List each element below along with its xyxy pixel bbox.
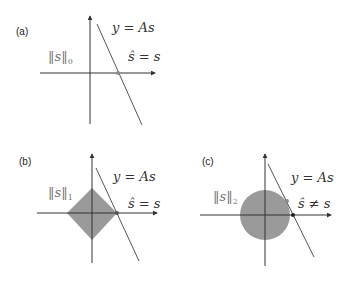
line-label: y = As — [290, 170, 334, 185]
panel-c: (c) ‖s‖2 y = As ŝ ≠ s — [200, 154, 334, 266]
panel-a-label: (a) — [16, 26, 28, 37]
norm-label: ‖s‖0 — [48, 49, 73, 66]
solution-label: ŝ = s — [128, 49, 161, 64]
norm-label: ‖s‖1 — [48, 185, 73, 202]
constraint-line — [97, 24, 142, 125]
line-label: y = As — [111, 20, 155, 35]
panel-c-label: (c) — [202, 156, 214, 167]
panel-a: (a) ‖s‖0 y = As ŝ = s — [16, 16, 161, 125]
l2-solution-dot — [285, 199, 289, 203]
true-solution-dot — [291, 213, 295, 217]
norm-comparison-diagram: (a) ‖s‖0 y = As ŝ = s (b) ‖s‖1 y = As ŝ … — [0, 0, 345, 283]
line-label: y = As — [112, 169, 156, 184]
solution-label: ŝ ≠ s — [298, 196, 331, 211]
panel-b-label: (b) — [19, 156, 31, 167]
solution-dot — [116, 71, 120, 75]
solution-label: ŝ = s — [128, 196, 161, 211]
panel-b: (b) ‖s‖1 y = As ŝ = s — [19, 154, 161, 263]
norm-label: ‖s‖2 — [213, 189, 238, 206]
solution-dot — [115, 211, 119, 215]
